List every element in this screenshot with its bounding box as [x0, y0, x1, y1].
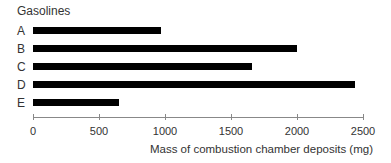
- category-label-c: C: [17, 61, 29, 73]
- x-tick-2000: [297, 114, 298, 120]
- category-label-e: E: [17, 97, 29, 109]
- x-tick-label: 2500: [351, 125, 375, 137]
- x-tick-label: 2000: [285, 125, 309, 137]
- category-label-a: A: [17, 25, 29, 37]
- bar-d: [33, 81, 355, 88]
- chart-title: Gasolines: [17, 4, 70, 18]
- x-axis-line: [33, 117, 363, 118]
- bar-e: [33, 99, 119, 106]
- category-label-b: B: [17, 43, 29, 55]
- x-tick-1500: [231, 114, 232, 120]
- x-tick-label: 500: [90, 125, 108, 137]
- bar-a: [33, 27, 161, 34]
- x-tick-label: 0: [30, 125, 36, 137]
- x-tick-label: 1500: [219, 125, 243, 137]
- category-label-d: D: [17, 79, 29, 91]
- bar-b: [33, 45, 297, 52]
- x-axis-label: Mass of combustion chamber deposits (mg): [150, 143, 373, 155]
- x-tick-500: [99, 114, 100, 120]
- x-tick-2500: [363, 114, 364, 120]
- x-tick-0: [33, 114, 34, 120]
- bar-c: [33, 63, 252, 70]
- x-tick-1000: [165, 114, 166, 120]
- x-tick-label: 1000: [153, 125, 177, 137]
